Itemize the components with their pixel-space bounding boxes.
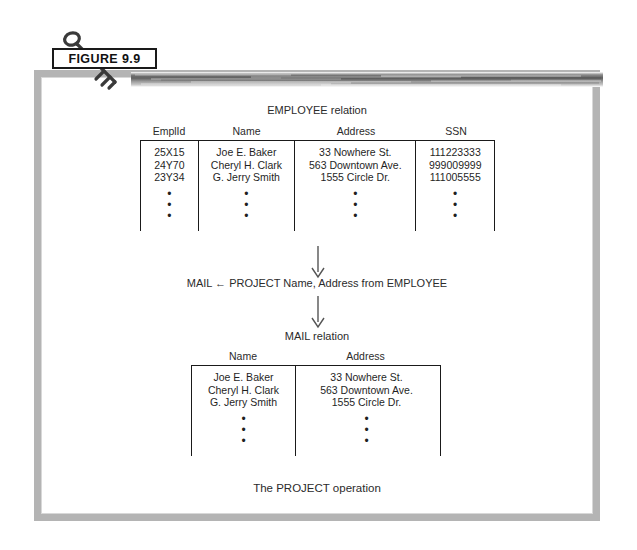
table-cell: 111005555	[416, 171, 494, 184]
table-cell: G. Jerry Smith	[192, 396, 295, 409]
table-cell: G. Jerry Smith	[199, 171, 294, 184]
table-cell: 25X15	[141, 146, 198, 159]
employee-column-emplid: 25X15 24Y70 23Y34 • • •	[141, 141, 199, 231]
employee-relation-title: EMPLOYEE relation	[34, 104, 600, 116]
mail-column-name: Joe E. Baker Cheryl H. Clark G. Jerry Sm…	[192, 366, 296, 456]
figure-label-box: FIGURE 9.9	[52, 48, 157, 69]
mail-column-address: 33 Nowhere St. 563 Downtown Ave. 1555 Ci…	[296, 366, 437, 456]
table-cell: Joe E. Baker	[192, 371, 295, 384]
down-arrow-icon	[306, 296, 330, 330]
table-cell: 563 Downtown Ave.	[295, 159, 415, 172]
column-header-name: Name	[191, 350, 295, 362]
mail-relation-table: Name Address Joe E. Baker Cheryl H. Clar…	[191, 350, 441, 456]
column-header-emplid: EmplId	[140, 125, 198, 137]
continuation-dots: • • •	[295, 184, 415, 222]
continuation-dots: • • •	[192, 409, 295, 447]
table-cell: 563 Downtown Ave.	[296, 384, 437, 397]
table-cell: 111223333	[416, 146, 494, 159]
table-cell: 1555 Circle Dr.	[295, 171, 415, 184]
table-cell: 23Y34	[141, 171, 198, 184]
table-cell: Joe E. Baker	[199, 146, 294, 159]
column-header-name: Name	[198, 125, 295, 137]
figure-content: EMPLOYEE relation EmplId Name Address SS…	[34, 70, 600, 521]
table-cell: 24Y70	[141, 159, 198, 172]
table-cell: Cheryl H. Clark	[199, 159, 294, 172]
continuation-dots: • • •	[141, 184, 198, 222]
down-arrow-icon	[306, 246, 330, 280]
employee-column-address: 33 Nowhere St. 563 Downtown Ave. 1555 Ci…	[295, 141, 416, 231]
mail-data-body: Joe E. Baker Cheryl H. Clark G. Jerry Sm…	[191, 365, 441, 456]
table-cell: 1555 Circle Dr.	[296, 396, 437, 409]
continuation-dots: • • •	[296, 409, 437, 447]
column-header-ssn: SSN	[417, 125, 495, 137]
employee-column-ssn: 111223333 999009999 111005555 • • •	[416, 141, 494, 231]
employee-relation-table: EmplId Name Address SSN 25X15 24Y70 23Y3…	[140, 125, 495, 231]
flow-arrow-bottom	[306, 296, 330, 334]
mail-relation-title: MAIL relation	[34, 330, 600, 342]
table-cell: 33 Nowhere St.	[295, 146, 415, 159]
mail-header-row: Name Address	[191, 350, 441, 365]
continuation-dots: • • •	[199, 184, 294, 222]
project-operation-expression: MAIL ← PROJECT Name, Address from EMPLOY…	[34, 277, 600, 289]
employee-header-row: EmplId Name Address SSN	[140, 125, 495, 140]
table-cell: 33 Nowhere St.	[296, 371, 437, 384]
figure-caption: The PROJECT operation	[34, 482, 600, 494]
employee-data-body: 25X15 24Y70 23Y34 • • • Joe E. Baker Che…	[140, 140, 495, 231]
figure-label: FIGURE 9.9	[68, 52, 140, 66]
employee-column-name: Joe E. Baker Cheryl H. Clark G. Jerry Sm…	[199, 141, 295, 231]
column-header-address: Address	[295, 350, 436, 362]
column-header-address: Address	[295, 125, 417, 137]
table-cell: Cheryl H. Clark	[192, 384, 295, 397]
continuation-dots: • • •	[416, 184, 494, 222]
table-cell: 999009999	[416, 159, 494, 172]
